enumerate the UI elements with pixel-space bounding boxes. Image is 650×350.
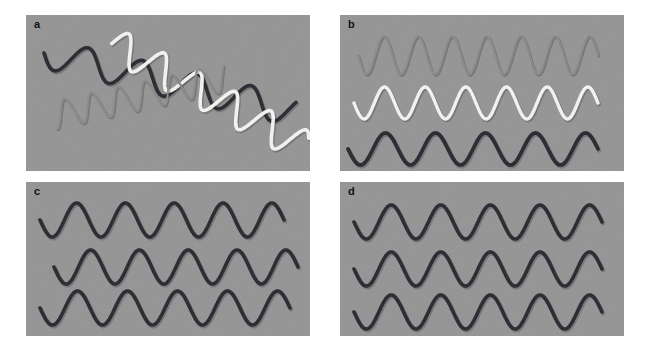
panel-a-label: a <box>34 19 40 30</box>
panel-d-label: d <box>348 186 355 197</box>
panel-a-grain-texture <box>26 15 310 171</box>
panel-c-waves <box>26 182 310 336</box>
panel-d: d <box>340 182 624 336</box>
panel-b-waves <box>340 15 624 171</box>
panel-d-waves <box>340 182 624 336</box>
panel-b-grain-texture <box>340 15 624 171</box>
panel-b: b <box>340 15 624 171</box>
panel-b-label: b <box>348 19 355 30</box>
panel-d-grain-texture <box>340 182 624 336</box>
panel-a: a <box>26 15 310 171</box>
panel-c-label: c <box>34 186 40 197</box>
figure-root: abcd <box>0 0 650 350</box>
panel-c: c <box>26 182 310 336</box>
panel-c-grain-texture <box>26 182 310 336</box>
panel-a-waves <box>26 15 310 171</box>
